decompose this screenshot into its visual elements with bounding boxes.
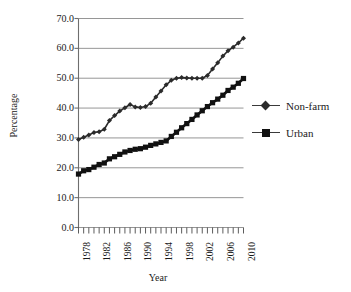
legend-item-non-farm: Non-farm bbox=[252, 92, 351, 119]
x-axis-tick-label: 1986 bbox=[124, 242, 134, 261]
x-axis-tick-label: 1998 bbox=[186, 242, 196, 261]
legend-label: Non-farm bbox=[286, 100, 329, 112]
x-axis-tick-label: 1982 bbox=[103, 242, 113, 261]
legend-diamond-icon bbox=[252, 100, 280, 112]
legend-label: Urban bbox=[286, 127, 314, 139]
x-axis-tick-label: 2010 bbox=[248, 242, 258, 261]
x-axis-tick-label: 1994 bbox=[165, 242, 175, 261]
x-axis-title: Year bbox=[128, 272, 188, 283]
legend-square-icon bbox=[252, 127, 280, 139]
x-axis-tick-label: 2002 bbox=[206, 242, 216, 261]
x-axis-tick-label: 1978 bbox=[83, 242, 93, 261]
legend-item-urban: Urban bbox=[252, 119, 351, 146]
x-axis-tick-labels: 197819821986199019941998200220062010 bbox=[0, 0, 351, 292]
chart-legend: Non-farm Urban bbox=[252, 92, 351, 146]
chart-figure: 70.060.050.040.030.020.010.00.0 19781982… bbox=[0, 0, 351, 292]
x-axis-tick-label: 2006 bbox=[227, 242, 237, 261]
x-axis-tick-label: 1990 bbox=[144, 242, 154, 261]
y-axis-title: Percentage bbox=[8, 81, 19, 151]
